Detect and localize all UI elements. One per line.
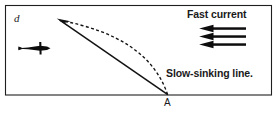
fast-current-label: Fast current (187, 9, 246, 20)
fast-current-arrows (199, 25, 246, 49)
point-a-label: A (164, 98, 171, 108)
depth-label: d (14, 13, 20, 24)
diagram-figure: d Fast current Slow-sinking line. A (0, 0, 280, 113)
slow-sinking-line-label: Slow-sinking line. (166, 68, 253, 79)
